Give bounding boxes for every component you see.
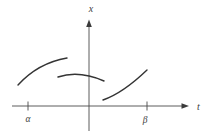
x-axis-arrow-icon — [86, 20, 92, 28]
t-axis-label: t — [197, 101, 200, 112]
solution-curve-right — [103, 70, 147, 100]
solution-curve-middle — [58, 74, 104, 81]
alpha-tick-label: α — [26, 114, 32, 124]
axes-diagram: x t α β — [0, 0, 207, 134]
figure-canvas: x t α β — [0, 0, 207, 134]
x-axis-label: x — [88, 3, 94, 14]
solution-curve-left — [18, 58, 67, 85]
t-axis-arrow-icon — [182, 103, 190, 109]
beta-tick-label: β — [142, 115, 148, 125]
